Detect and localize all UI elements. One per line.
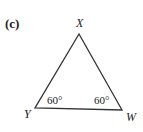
vertex-label-y: Y xyxy=(24,107,32,121)
part-label: (c) xyxy=(5,16,19,31)
vertex-label-x: X xyxy=(75,16,84,30)
angle-label-w: 60° xyxy=(94,94,109,106)
vertex-label-w: W xyxy=(126,110,137,124)
triangle-diagram: (c) X Y W 60° 60° xyxy=(0,0,143,132)
angle-label-y: 60° xyxy=(47,94,62,106)
